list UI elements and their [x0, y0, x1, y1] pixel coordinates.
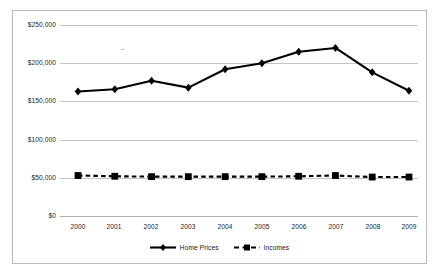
gridline-100000: [60, 140, 418, 141]
y-axis-tick-200000: $200,000: [0, 60, 56, 67]
legend-label-home-prices: Home Prices: [180, 244, 219, 251]
y-axis-tick-50000: $50,000: [0, 175, 56, 182]
legend-label-incomes: Incomes: [264, 244, 290, 251]
square-marker-icon: [233, 243, 261, 252]
line-chart: $250,000 $200,000 $150,000 $100,000 $50,…: [0, 0, 438, 273]
gridline-200000: [60, 63, 418, 64]
x-axis-tick-2002: 2002: [143, 224, 158, 231]
legend-item-home-prices[interactable]: Home Prices: [149, 243, 219, 252]
gridline-0: [60, 216, 418, 217]
y-axis-tick-100000: $100,000: [0, 137, 56, 144]
gridline-50000: [60, 178, 418, 179]
x-axis-tick-2007: 2007: [328, 224, 343, 231]
y-axis-tick-250000: $250,000: [0, 22, 56, 29]
plot-area: [60, 25, 418, 216]
x-axis-tick-2006: 2006: [291, 224, 306, 231]
x-axis-tick-2001: 2001: [106, 224, 121, 231]
x-axis-tick-2008: 2008: [365, 224, 380, 231]
x-axis-tick-2000: 2000: [70, 224, 85, 231]
chart-legend: Home Prices Incomes: [0, 243, 438, 252]
x-axis-tick-2004: 2004: [217, 224, 232, 231]
gridline-150000: [60, 101, 418, 102]
y-axis-tick-150000: $150,000: [0, 98, 56, 105]
diamond-marker-icon: [149, 243, 177, 252]
legend-item-incomes[interactable]: Incomes: [233, 243, 290, 252]
x-axis-tick-2009: 2009: [401, 224, 416, 231]
y-axis-tick-0: $0: [0, 213, 56, 220]
x-axis-tick-2003: 2003: [180, 224, 195, 231]
x-axis-tick-2005: 2005: [254, 224, 269, 231]
gridline-250000: [60, 25, 418, 26]
